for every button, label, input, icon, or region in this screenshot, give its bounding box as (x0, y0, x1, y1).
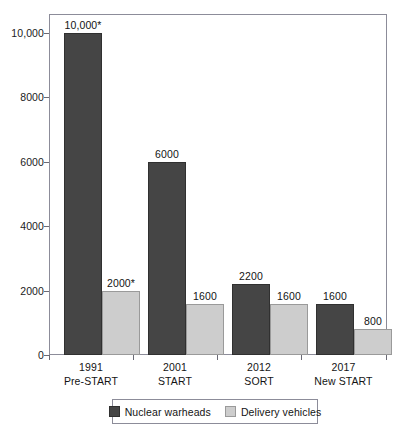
x-group-label-2017: 2017 New START (301, 360, 386, 388)
bar-chart: 10,000 8000 6000 4000 2000 0 10,000* 200… (0, 0, 409, 442)
bar-value-label: 6000 (144, 148, 190, 160)
legend-label: Nuclear warheads (125, 406, 211, 418)
x-group-label-2012: 2012 SORT (217, 360, 301, 388)
bar-delivery-vehicles-1991[interactable] (102, 291, 140, 355)
x-group-label-line2: Pre-START (49, 374, 133, 388)
x-group-label-line1: 2001 (163, 361, 187, 373)
y-tick-label: 8000 (20, 91, 44, 103)
legend-swatch-icon (109, 406, 120, 417)
bar-delivery-vehicles-2017[interactable] (354, 329, 392, 355)
y-axis: 10,000 8000 6000 4000 2000 0 (0, 0, 44, 442)
x-group-label-1991: 1991 Pre-START (49, 360, 133, 388)
bar-value-label: 1600 (182, 290, 228, 302)
legend-item-delivery-vehicles[interactable]: Delivery vehicles (225, 406, 321, 418)
bar-delivery-vehicles-2001[interactable] (186, 304, 224, 355)
legend-label: Delivery vehicles (241, 406, 321, 418)
legend-item-nuclear-warheads[interactable]: Nuclear warheads (109, 406, 211, 418)
y-tick-label: 10,000 (11, 27, 44, 39)
bar-nuclear-warheads-2001[interactable] (148, 162, 186, 355)
bar-nuclear-warheads-1991[interactable] (64, 33, 102, 355)
bar-delivery-vehicles-2012[interactable] (270, 304, 308, 355)
bar-value-label: 1600 (312, 290, 358, 302)
y-tick-label: 6000 (20, 156, 44, 168)
y-tick-label: 4000 (20, 220, 44, 232)
bar-value-label: 1600 (266, 290, 312, 302)
bar-nuclear-warheads-2012[interactable] (232, 284, 270, 355)
chart-legend: Nuclear warheads Delivery vehicles (112, 399, 318, 424)
bars-layer: 10,000* 2000* 6000 1600 2200 1600 1600 8… (49, 14, 387, 355)
x-group-label-line2: New START (301, 374, 386, 388)
x-group-label-line2: START (133, 374, 217, 388)
legend-swatch-icon (225, 406, 236, 417)
bar-value-label: 2000* (98, 277, 144, 289)
bar-value-label: 10,000* (60, 19, 106, 31)
bar-value-label: 2200 (228, 270, 274, 282)
x-group-label-line1: 2012 (247, 361, 271, 373)
x-group-label-line2: SORT (217, 374, 301, 388)
y-tick-label: 2000 (20, 285, 44, 297)
x-axis: 1991 Pre-START 2001 START 2012 SORT 2017… (49, 360, 387, 394)
x-group-label-line1: 1991 (79, 361, 103, 373)
bar-value-label: 800 (350, 315, 396, 327)
x-group-label-line1: 2017 (332, 361, 356, 373)
bar-nuclear-warheads-2017[interactable] (316, 304, 354, 355)
x-group-label-2001: 2001 START (133, 360, 217, 388)
